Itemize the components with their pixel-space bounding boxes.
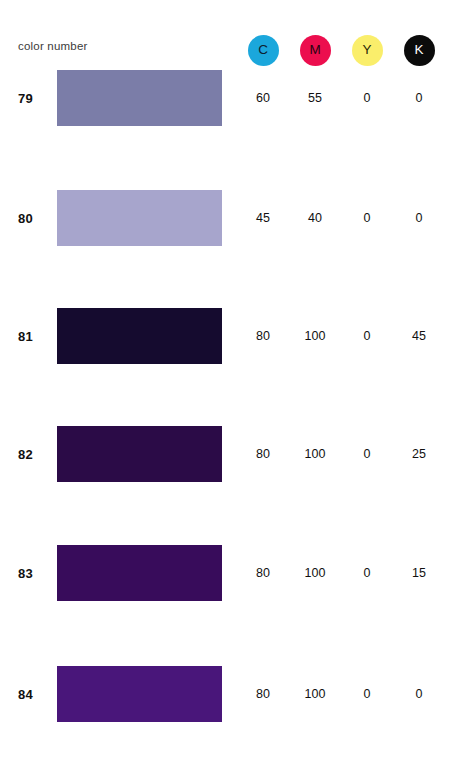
value-y: 0 [341, 190, 393, 246]
row-number: 79 [18, 70, 33, 126]
value-m: 100 [289, 666, 341, 722]
value-c: 80 [237, 426, 289, 482]
ink-column-black: K [393, 30, 445, 70]
value-k: 0 [393, 190, 445, 246]
ink-legend: CMYK [237, 30, 445, 70]
cmyk-values: 8010000 [237, 666, 445, 722]
value-m: 40 [289, 190, 341, 246]
ink-column-magenta: M [289, 30, 341, 70]
value-y: 0 [341, 308, 393, 364]
table-row: 79605500 [0, 70, 459, 126]
cmyk-values: 605500 [237, 70, 445, 126]
value-k: 0 [393, 666, 445, 722]
yellow-ink-icon: Y [352, 35, 383, 66]
value-k: 0 [393, 70, 445, 126]
table-row: 80454000 [0, 190, 459, 246]
value-c: 80 [237, 666, 289, 722]
ink-column-cyan: C [237, 30, 289, 70]
cmyk-values: 80100045 [237, 308, 445, 364]
color-swatch [57, 308, 222, 364]
value-k: 45 [393, 308, 445, 364]
cmyk-values: 80100015 [237, 545, 445, 601]
color-swatch [57, 190, 222, 246]
value-m: 100 [289, 426, 341, 482]
value-c: 80 [237, 308, 289, 364]
cyan-ink-icon: C [248, 35, 279, 66]
color-swatch [57, 426, 222, 482]
value-k: 25 [393, 426, 445, 482]
value-y: 0 [341, 426, 393, 482]
color-number-label: color number [18, 40, 88, 52]
row-number: 83 [18, 545, 33, 601]
color-swatch [57, 666, 222, 722]
value-y: 0 [341, 545, 393, 601]
row-number: 84 [18, 666, 33, 722]
row-number: 81 [18, 308, 33, 364]
row-number: 80 [18, 190, 33, 246]
table-row: 8380100015 [0, 545, 459, 601]
value-m: 100 [289, 308, 341, 364]
value-c: 45 [237, 190, 289, 246]
color-swatch [57, 70, 222, 126]
row-number: 82 [18, 426, 33, 482]
color-swatch [57, 545, 222, 601]
color-chart: color number CMYK 7960550080454000818010… [0, 0, 459, 759]
value-m: 55 [289, 70, 341, 126]
value-y: 0 [341, 666, 393, 722]
table-row: 848010000 [0, 666, 459, 722]
value-c: 80 [237, 545, 289, 601]
value-m: 100 [289, 545, 341, 601]
cmyk-values: 454000 [237, 190, 445, 246]
magenta-ink-icon: M [300, 35, 331, 66]
value-c: 60 [237, 70, 289, 126]
value-y: 0 [341, 70, 393, 126]
table-row: 8280100025 [0, 426, 459, 482]
table-row: 8180100045 [0, 308, 459, 364]
cmyk-values: 80100025 [237, 426, 445, 482]
ink-column-yellow: Y [341, 30, 393, 70]
chart-header: color number CMYK [0, 30, 459, 70]
value-k: 15 [393, 545, 445, 601]
black-ink-icon: K [404, 35, 435, 66]
